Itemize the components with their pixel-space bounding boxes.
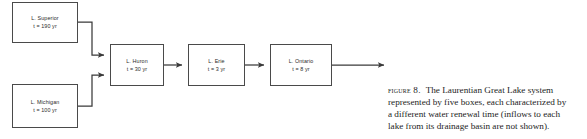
caption-line-4: lake from its drainage basin are not sho… bbox=[388, 120, 587, 132]
node-lake-superior: L. Superior t = 190 yr bbox=[12, 2, 78, 43]
node-label-time: t = 100 yr bbox=[33, 107, 57, 114]
node-lake-erie: L. Erie t = 3 yr bbox=[188, 44, 245, 86]
edge-michigan-to-huron bbox=[78, 75, 104, 106]
figure-number-label: FIGURE 8. bbox=[388, 85, 421, 95]
node-lake-ontario: L. Ontario t = 8 yr bbox=[270, 44, 332, 86]
node-label-name: L. Superior bbox=[31, 15, 58, 22]
caption-line-2: represented by five boxes, each characte… bbox=[388, 96, 587, 108]
node-lake-michigan: L. Michigan t = 100 yr bbox=[12, 84, 78, 128]
node-lake-huron: L. Huron t = 30 yr bbox=[110, 44, 164, 86]
node-label-time: t = 30 yr bbox=[127, 66, 148, 73]
great-lakes-flowchart: L. Superior t = 190 yr L. Michigan t = 1… bbox=[0, 0, 392, 139]
node-label-name: L. Michigan bbox=[31, 99, 60, 106]
node-label-name: L. Huron bbox=[126, 58, 147, 65]
node-label-time: t = 3 yr bbox=[208, 66, 225, 73]
edge-superior-to-huron bbox=[78, 22, 104, 55]
node-label-name: L. Erie bbox=[208, 58, 224, 65]
node-label-name: L. Ontario bbox=[289, 58, 314, 65]
caption-line-3: a different water renewal time (inflows … bbox=[388, 108, 587, 120]
caption-text-line-1: The Laurentian Great Lake system bbox=[426, 85, 554, 95]
caption-line-1: FIGURE 8.The Laurentian Great Lake syste… bbox=[388, 84, 587, 96]
figure-caption: FIGURE 8.The Laurentian Great Lake syste… bbox=[388, 84, 587, 132]
node-label-time: t = 8 yr bbox=[292, 66, 309, 73]
node-label-time: t = 190 yr bbox=[33, 23, 57, 30]
figure-8: L. Superior t = 190 yr L. Michigan t = 1… bbox=[0, 0, 587, 139]
